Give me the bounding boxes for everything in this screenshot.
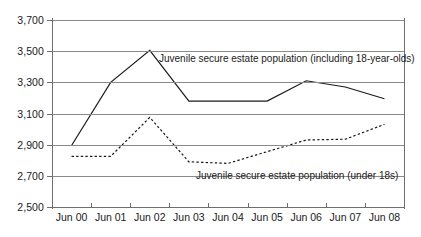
x-axis-tick-mark	[91, 203, 92, 208]
gridline-2900	[52, 145, 404, 146]
y-axis-tick-label: 2,500	[0, 202, 44, 212]
y-axis-line	[52, 18, 53, 209]
x-axis-tick-mark	[326, 203, 327, 208]
y-axis-tick-label: 3,700	[0, 15, 44, 25]
series-annotation-including-18-year-olds: Juvenile secure estate population (inclu…	[159, 53, 415, 64]
plot-right-border	[404, 18, 405, 209]
series-annotation-under-18s: Juvenile secure estate population (under…	[196, 170, 398, 181]
x-axis-tick-mark	[169, 203, 170, 208]
x-axis-tick-label: Jun 06	[287, 211, 326, 223]
x-axis-line	[52, 207, 405, 208]
x-axis-tick-label: Jun 01	[91, 211, 130, 223]
gridline-3300	[52, 82, 404, 83]
x-axis-tick-label: Jun 03	[169, 211, 208, 223]
gridline-3500	[52, 51, 404, 52]
x-axis-tick-mark	[248, 203, 249, 208]
x-axis-tick-label: Jun 08	[365, 211, 404, 223]
x-axis-tick-mark	[208, 203, 209, 208]
x-axis-tick-mark	[365, 203, 366, 208]
x-axis-tick-label: Jun 04	[208, 211, 247, 223]
y-axis-tick-label: 2,700	[0, 171, 44, 181]
x-axis-tick-label: Jun 07	[326, 211, 365, 223]
y-axis-tick-label: 3,100	[0, 109, 44, 119]
series-line-under-18s	[72, 117, 385, 163]
gridline-3700	[52, 20, 404, 21]
x-axis-tick-label: Jun 02	[130, 211, 169, 223]
x-axis-tick-label: Jun 00	[52, 211, 91, 223]
x-axis-tick-mark	[130, 203, 131, 208]
x-axis-tick-label: Jun 05	[248, 211, 287, 223]
y-axis-tick-label: 3,500	[0, 46, 44, 56]
series-line-including-18-year-olds	[72, 50, 385, 145]
y-axis-tick-label: 3,300	[0, 77, 44, 87]
line-chart: 3,7003,5003,3003,1002,9002,7002,500 Jun …	[0, 0, 421, 237]
y-axis-tick-label: 2,900	[0, 140, 44, 150]
x-axis-tick-mark	[287, 203, 288, 208]
gridline-3100	[52, 114, 404, 115]
